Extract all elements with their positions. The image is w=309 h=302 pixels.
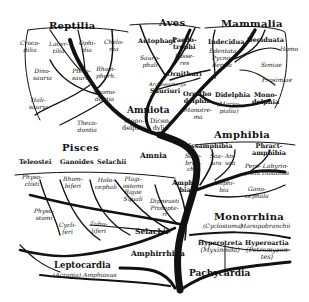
label-marsipobranchii: Marsipobranchii <box>240 223 290 230</box>
label-anomodontia: Anomo-dontia <box>93 89 116 102</box>
node-monodelphia: Mono-delphia <box>122 118 146 132</box>
node-leptocardia-subtitle: (Acrania) Amphioxus <box>53 272 117 279</box>
node-amphirrhina: Amphirrhina <box>131 250 185 258</box>
label-physostomi: Physo-stomi <box>34 208 54 221</box>
label-lissamphibia: Lissamphibia <box>184 143 232 150</box>
label-deciduata: Deciduata <box>247 37 284 44</box>
label-plagiostomi: Plagi-ostomiRajaeSquali <box>123 176 143 202</box>
label-dinosauria: Dino-sauria <box>33 68 52 81</box>
label-ganoides: Ganoides <box>60 159 94 166</box>
node-leptocardia: Leptocardia <box>54 261 111 270</box>
label-sozobranchia: Sozo-bran-chia <box>185 153 202 173</box>
label-homo: Homo <box>280 46 298 53</box>
label-peromela: Pero-mela <box>245 163 261 176</box>
label-pycnoderma: Pycno-derma <box>212 55 232 68</box>
label-paedotrophi: Paedo-trophi <box>172 37 197 51</box>
label-autophagi: Autophagi <box>138 38 176 45</box>
label-tubuliferi: Tubu-liferi <box>90 221 108 234</box>
label-simiae: Simiae <box>261 62 282 69</box>
node-selachii: Selachii <box>135 228 169 236</box>
label-dipneusti: DipneustiProtopte-ri <box>150 198 179 218</box>
group-monorrhina-heading: Monorrhina <box>214 212 284 222</box>
node-pachycardia: Pachycardia <box>189 269 250 278</box>
label-hyperoartia: Hyperoartia(Petromyzontes) <box>245 240 289 261</box>
tree-of-life-diagram: Reptilia Aves Mammalia Amphibia Pisces M… <box>0 0 309 302</box>
label-ornithuri: Ornithuri <box>167 71 202 78</box>
label-rhombiferi: Rhom-biferi <box>63 176 83 189</box>
label-ophidia: Ophi-dia <box>79 40 96 53</box>
label-sozura: Soz-ura <box>210 153 223 166</box>
label-crocodilia: Croco-dilia <box>20 40 40 53</box>
group-reptilia-heading: Reptilia <box>49 21 96 31</box>
label-halisauria: Hali-sauria <box>29 97 48 110</box>
label-indecidua: Indecidua <box>208 39 244 46</box>
label-holocephali: Holo-cephali <box>95 177 117 190</box>
label-selachii-heading: Selachii <box>97 159 126 166</box>
label-monodelphia-mammal: Mono-delphia <box>252 92 279 106</box>
label-saurophali: Sauro-phali <box>140 55 160 68</box>
node-amniota: Amniota <box>127 106 169 115</box>
label-ganocephala: Gano-cephala <box>245 186 269 199</box>
label-phractamphibia: Phract-amphibia <box>252 143 286 157</box>
label-amphibia-sub: Amphi-bia <box>213 180 235 193</box>
label-hyperotreta: Hyperotreta(Myxinoida) <box>198 240 242 254</box>
group-aves-heading: Aves <box>159 18 185 28</box>
label-monotrema: Monotre-ma <box>184 107 212 120</box>
label-physoclisti: Physo-clisti <box>22 174 42 187</box>
group-amphibia-heading: Amphibia <box>214 130 270 140</box>
label-passeres: Passe-res <box>175 53 194 66</box>
label-marsupialia: (Marsu-pialia) <box>217 101 241 114</box>
label-sauriuri: Sauriuri <box>150 88 180 95</box>
node-amphibia-stem: Amphi-bia <box>172 180 198 194</box>
node-dicendylia: Dicen-dylia <box>150 118 171 132</box>
group-mammalia-heading: Mammalia <box>221 19 283 29</box>
label-cyclostoma: (Cyclostoma) <box>203 223 243 230</box>
label-teleostei: Teleostei <box>19 159 51 166</box>
label-theriodontia: Theco-dontia <box>77 120 97 133</box>
label-rhamphorhynchia: Rham-phorh. <box>96 66 116 79</box>
label-labyrinthodonta: Labyrin-thodonta <box>262 163 289 176</box>
node-amnia: Amnia <box>140 152 167 160</box>
group-pisces-heading: Pisces <box>62 143 99 153</box>
label-cycliferi: Cycli-feri <box>59 222 76 235</box>
label-didelphia: Didelphia <box>215 92 250 99</box>
label-anura: An-ura <box>225 153 235 166</box>
label-ornithodelphia: Ornithodelphia <box>183 91 211 105</box>
label-lacertilia: Lacer-tilia <box>49 41 68 54</box>
label-chelonia: Chelo-nia <box>104 39 124 52</box>
label-prosimiae: Prosimiae <box>262 77 292 84</box>
label-pterosauria: Ptero-sauria <box>72 68 91 81</box>
